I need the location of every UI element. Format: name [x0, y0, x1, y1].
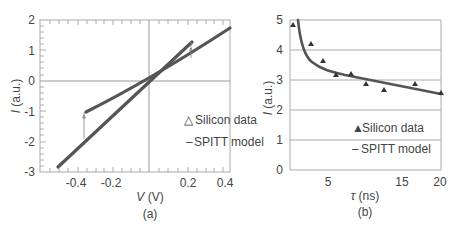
legend-a: △ Silicon data – SPITT model [184, 113, 264, 149]
legend-b: ▲ Silicon data – SPITT model [352, 121, 431, 156]
xtick-a-02: 0.2 [180, 176, 197, 190]
ytick-a-neg2: -2 [24, 135, 35, 149]
data-point [348, 71, 354, 76]
xtick-b-5: 5 [325, 175, 332, 189]
xlabel-b: τ (ns) [351, 189, 380, 203]
ytick-a-2: 2 [28, 13, 35, 27]
legend-a-data-label: Silicon data [195, 113, 257, 127]
data-point [320, 58, 326, 63]
ytick-b-4: 4 [276, 43, 283, 57]
legend-a-model-marker: – [186, 135, 193, 149]
y-minor-ticks-a [40, 26, 46, 166]
ytick-b-5: 5 [276, 13, 283, 27]
data-point [381, 87, 387, 92]
figure: 2 1 0 -1 -2 -3 -0.4 -0.2 0.2 0.4 V (V) (… [0, 0, 458, 226]
silicon-data-points [290, 22, 444, 95]
data-point [290, 22, 296, 27]
ylabel-b: I (a.u.) [261, 81, 275, 116]
spitt-steep-branch [58, 42, 192, 167]
panel-b: 5 4 3 2 1 0 5 15 20 τ (ns) (b) I (a.u.) … [261, 13, 447, 219]
xtick-b-20: 20 [433, 175, 447, 189]
spitt-shallow-branch [86, 28, 230, 112]
ytick-b-3: 3 [276, 73, 283, 87]
ytick-a-0: 0 [28, 74, 35, 88]
spacer [230, 0, 232, 1]
xtick-b-15: 15 [395, 175, 409, 189]
ytick-a-neg1: -1 [24, 105, 35, 119]
spitt-model-curve [298, 20, 441, 94]
legend-b-model-marker: – [352, 142, 359, 156]
panel-a: 2 1 0 -1 -2 -3 -0.4 -0.2 0.2 0.4 V (V) (… [9, 13, 264, 221]
ytick-a-neg3: -3 [24, 165, 35, 179]
legend-b-model-label: SPITT model [361, 142, 431, 156]
ytick-b-0: 0 [276, 163, 283, 177]
data-point [363, 81, 369, 86]
xtick-a-neg04: -0.4 [66, 176, 87, 190]
xtick-a-04: 0.4 [217, 176, 234, 190]
legend-b-data-label: Silicon data [362, 121, 424, 135]
data-point [308, 41, 314, 46]
data-point [412, 81, 418, 86]
legend-a-data-marker: △ [184, 113, 194, 127]
ylabel-a: I (a.u.) [9, 79, 23, 114]
caption-a: (a) [143, 207, 158, 221]
xlabel-a: V (V) [136, 190, 163, 204]
ytick-a-1: 1 [28, 44, 35, 58]
legend-a-model-label: SPITT model [194, 135, 264, 149]
xtick-a-neg02: -0.2 [101, 176, 122, 190]
caption-b: (b) [358, 205, 373, 219]
ytick-b-1: 1 [276, 133, 283, 147]
ytick-b-2: 2 [276, 103, 283, 117]
